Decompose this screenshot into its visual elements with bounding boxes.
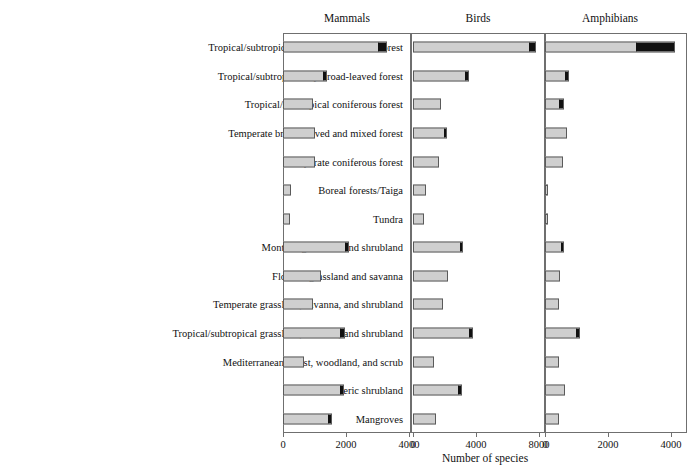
x-axis-tick-label: 2000 <box>598 439 619 450</box>
bar-threatened-segment <box>340 329 343 338</box>
x-axis-tick-label: 0 <box>542 439 547 450</box>
bar <box>413 185 426 196</box>
bar <box>283 213 290 224</box>
bar <box>413 242 463 253</box>
x-axis-tick <box>608 433 609 437</box>
x-axis-tick-label: 0 <box>280 439 285 450</box>
bar-threatened-segment <box>460 243 463 252</box>
bar-threatened-segment <box>559 100 563 109</box>
bar <box>545 299 559 310</box>
bar <box>283 156 315 167</box>
plot-frame-amphibians <box>545 33 687 433</box>
bar <box>545 413 559 424</box>
bar <box>413 356 434 367</box>
x-axis-tick <box>671 433 672 437</box>
bar <box>545 385 565 396</box>
bar <box>413 328 473 339</box>
bar <box>545 242 564 253</box>
x-axis-tick <box>409 433 410 437</box>
x-axis-title: Number of species <box>442 452 528 464</box>
bar <box>413 270 448 281</box>
species-by-biome-figure: Mammals Birds Amphibians Tropical/subtro… <box>0 0 687 476</box>
bar-threatened-segment <box>576 329 579 338</box>
bar-threatened-segment <box>561 243 564 252</box>
bar <box>413 299 443 310</box>
bar <box>283 385 344 396</box>
bar <box>545 328 580 339</box>
x-axis-tick <box>346 433 347 437</box>
bar <box>545 213 548 224</box>
bar <box>545 99 564 110</box>
bar-threatened-segment <box>565 71 568 80</box>
bar <box>545 70 569 81</box>
bar <box>545 185 548 196</box>
x-axis-tick <box>545 433 546 437</box>
bar <box>283 328 345 339</box>
x-axis-tick <box>413 433 414 437</box>
x-axis-tick <box>283 433 284 437</box>
bar <box>283 70 327 81</box>
bar-threatened-segment <box>323 71 326 80</box>
category-label: Mangroves <box>356 413 406 424</box>
bar <box>413 385 462 396</box>
category-label: Temperate broad-leaved and mixed forest <box>228 128 406 139</box>
bar-threatened-segment <box>458 386 461 395</box>
x-axis-tick <box>476 433 477 437</box>
x-axis-tick <box>539 433 540 437</box>
category-label: Tropical/subtropical coniferous forest <box>245 99 406 110</box>
bar <box>283 242 349 253</box>
panel-header-birds: Birds <box>411 12 545 24</box>
bar <box>283 185 291 196</box>
x-axis-tick-label: 2000 <box>336 439 357 450</box>
bar <box>413 413 436 424</box>
bar <box>413 128 447 139</box>
panel-header-amphibians: Amphibians <box>545 12 675 24</box>
x-axis-tick-label: 4000 <box>661 439 682 450</box>
bar-threatened-segment <box>378 43 386 52</box>
bar <box>413 42 536 53</box>
plot-frame-birds <box>411 33 545 433</box>
bar-threatened-segment <box>529 43 535 52</box>
bar <box>413 213 424 224</box>
x-axis-tick-label: 0 <box>410 439 415 450</box>
bar <box>283 270 321 281</box>
bar <box>545 42 675 53</box>
bar <box>283 413 332 424</box>
category-label: Mediterranean forest, woodland, and scru… <box>223 356 406 367</box>
bar <box>413 156 439 167</box>
bar <box>413 70 469 81</box>
bar <box>413 99 441 110</box>
bar <box>545 270 560 281</box>
x-axis-tick-label: 4000 <box>399 439 420 450</box>
bar <box>283 99 313 110</box>
bar <box>545 356 559 367</box>
bar <box>283 128 315 139</box>
bar-threatened-segment <box>465 71 468 80</box>
bar-threatened-segment <box>636 43 674 52</box>
bar-threatened-segment <box>444 129 447 138</box>
bar <box>283 356 304 367</box>
plot-frame-mammals <box>283 33 411 433</box>
category-label: Tundra <box>373 213 406 224</box>
bar-threatened-segment <box>469 329 472 338</box>
bar <box>283 299 313 310</box>
bar-threatened-segment <box>340 386 343 395</box>
x-axis-tick-label: 4000 <box>466 439 487 450</box>
bar-threatened-segment <box>328 414 331 423</box>
panel-header-mammals: Mammals <box>283 12 411 24</box>
category-label: Boreal forests/Taiga <box>318 185 406 196</box>
bar <box>545 156 563 167</box>
bar-threatened-segment <box>345 243 348 252</box>
bar <box>545 128 567 139</box>
bar <box>283 42 387 53</box>
